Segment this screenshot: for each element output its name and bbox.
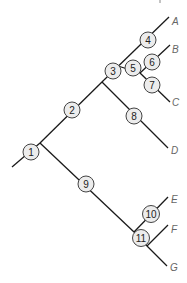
tip-label-C: C (172, 97, 180, 108)
tip-label-D: D (171, 145, 178, 156)
node-2: 2 (64, 102, 80, 118)
node-7: 7 (144, 77, 160, 93)
node-label: 1 (28, 147, 34, 158)
tip-label-E: E (171, 194, 178, 205)
node-10: 10 (143, 206, 160, 223)
node-label: 7 (149, 80, 155, 91)
branch-to-F (147, 225, 168, 246)
node-label: 5 (130, 63, 136, 74)
node-5: 5 (125, 60, 141, 76)
node-label: 3 (110, 66, 116, 77)
node-9: 9 (78, 176, 94, 192)
phylogenetic-tree-diagram: 1 2 3 4 5 6 7 8 9 10 11 A B C D E F G (0, 0, 187, 283)
tree-branches (12, 17, 170, 266)
node-label: 11 (136, 233, 147, 244)
tip-label-G: G (170, 262, 178, 273)
tip-label-A: A (171, 16, 179, 27)
node-label: 8 (131, 111, 137, 122)
node-label: 6 (149, 57, 155, 68)
node-11: 11 (133, 230, 150, 247)
node-6: 6 (144, 54, 160, 70)
node-1: 1 (23, 144, 39, 160)
node-4: 4 (140, 32, 156, 48)
node-label: 9 (83, 179, 89, 190)
node-label: 4 (145, 35, 151, 46)
branch-to-G (147, 246, 167, 266)
node-label: 2 (69, 105, 75, 116)
tip-label-F: F (171, 224, 178, 235)
node-label: 10 (145, 209, 157, 220)
node-3: 3 (105, 63, 121, 79)
tip-label-B: B (172, 44, 179, 55)
node-8: 8 (126, 108, 142, 124)
